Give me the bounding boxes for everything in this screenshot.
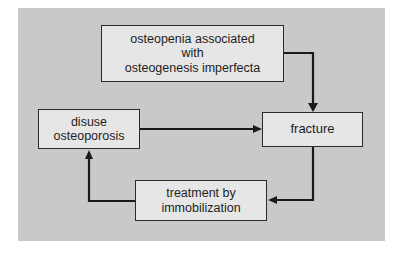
arrow-fracture-to-treatment — [276, 147, 313, 200]
arrowhead-right-icon — [253, 125, 262, 133]
arrow-treatment-to-disuse — [89, 158, 135, 201]
arrow-osteopenia-to-fracture — [284, 53, 313, 104]
arrowhead-left-icon — [268, 196, 277, 204]
arrowhead-up-icon — [85, 150, 93, 159]
arrowhead-down-icon — [308, 103, 318, 112]
arrows-layer — [0, 0, 399, 253]
